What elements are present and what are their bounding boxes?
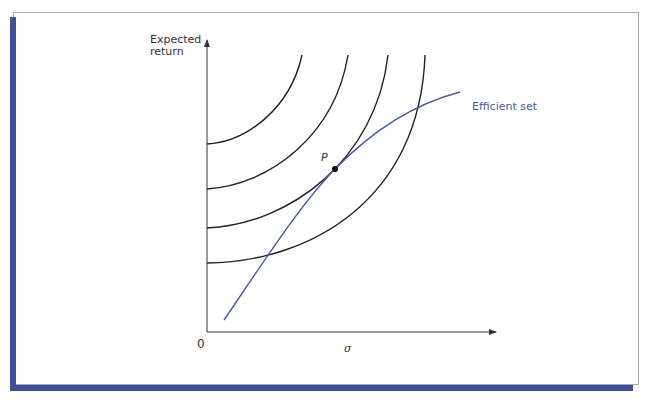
y-axis-label: Expected return: [150, 34, 201, 58]
indifference-curve-3: [207, 55, 388, 228]
efficient-set-label: Efficient set: [472, 101, 537, 113]
indifference-curve-1: [207, 55, 302, 144]
tangency-point: [332, 166, 338, 172]
indifference-curve-4: [207, 55, 425, 263]
point-p-label: P: [321, 152, 328, 164]
indifference-curve-2: [207, 55, 348, 189]
efficient-set-curve: [224, 92, 460, 320]
y-axis-label-line2: return: [150, 46, 201, 58]
x-axis-label: σ: [344, 343, 352, 355]
chart-canvas: [0, 0, 653, 402]
origin-label: 0: [197, 338, 205, 350]
